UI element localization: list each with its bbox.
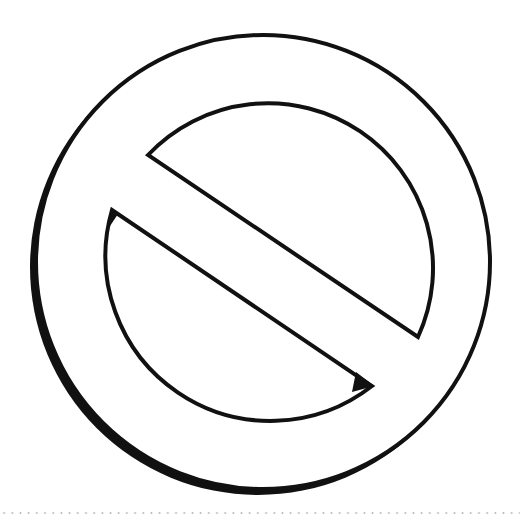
dotted-divider bbox=[0, 512, 520, 514]
prohibition-sign-icon bbox=[0, 0, 520, 524]
